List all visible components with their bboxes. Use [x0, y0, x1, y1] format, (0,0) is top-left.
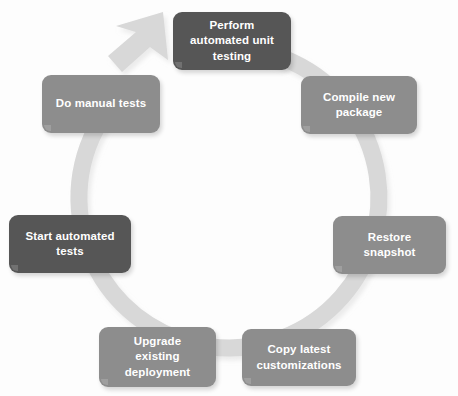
cycle-arrowhead — [108, 12, 168, 72]
node-label: Upgrade existing deployment — [107, 334, 208, 380]
node-start-automated-tests[interactable]: Start automated tests — [9, 215, 131, 273]
node-label: Restore snapshot — [341, 230, 438, 260]
node-restore-snapshot[interactable]: Restore snapshot — [333, 216, 446, 274]
node-compile-new-package[interactable]: Compile new package — [301, 76, 417, 134]
node-upgrade-existing-deployment[interactable]: Upgrade existing deployment — [99, 327, 216, 387]
node-copy-latest-customizations[interactable]: Copy latest customizations — [242, 329, 356, 386]
node-do-manual-tests[interactable]: Do manual tests — [42, 75, 160, 133]
node-label: Start automated tests — [17, 229, 123, 259]
node-label: Compile new package — [309, 90, 409, 120]
node-label: Perform automated unit testing — [181, 18, 283, 64]
diagram-canvas: Perform automated unit testing Compile n… — [0, 0, 458, 396]
node-label: Copy latest customizations — [250, 342, 348, 372]
node-label: Do manual tests — [50, 96, 152, 111]
node-perform-automated-unit-testing[interactable]: Perform automated unit testing — [173, 12, 291, 70]
